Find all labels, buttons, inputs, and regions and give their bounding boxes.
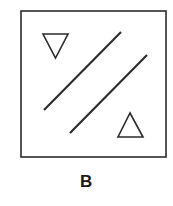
figure-panel-b: B xyxy=(0,0,173,206)
figure-caption-label: B xyxy=(0,172,173,192)
square-frame xyxy=(21,11,166,157)
